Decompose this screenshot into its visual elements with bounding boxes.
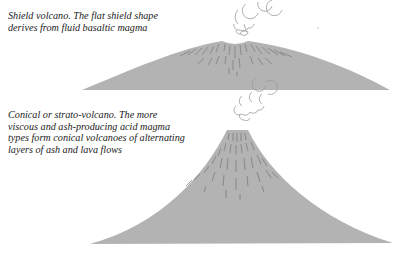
stray-dot: [317, 27, 318, 28]
shield-volcano-icon: [82, 41, 390, 90]
smoke-puff-icon: [234, 0, 282, 35]
volcano-diagram: [0, 0, 402, 259]
strato-volcano-icon: [90, 130, 393, 244]
